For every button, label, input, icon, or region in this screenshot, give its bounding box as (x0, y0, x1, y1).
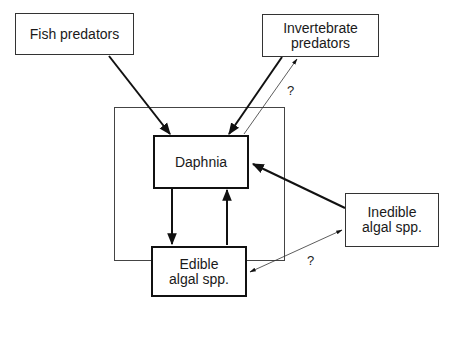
uncertainty-label-invertebrate: ? (287, 83, 294, 98)
node-label: Fish predators (30, 27, 119, 42)
edge-fish-to-daphnia (109, 56, 170, 134)
uncertainty-label-algae: ? (307, 253, 314, 268)
node-label: Daphnia (175, 155, 227, 170)
node-label: Invertebrate predators (283, 21, 358, 51)
edge-inedible-to-daphnia (253, 164, 345, 208)
edge-invertebrate-to-daphnia (229, 57, 282, 134)
node-label: Edible algal spp. (169, 257, 229, 287)
node-edible-algae: Edible algal spp. (151, 246, 247, 297)
node-fish-predators: Fish predators (15, 13, 134, 55)
node-label: Inedible algal spp. (362, 205, 422, 235)
node-inedible-algae: Inedible algal spp. (345, 193, 439, 247)
edge-edible-inedible (250, 230, 342, 272)
node-daphnia: Daphnia (153, 135, 249, 189)
node-invertebrate-predators: Invertebrate predators (262, 14, 379, 57)
